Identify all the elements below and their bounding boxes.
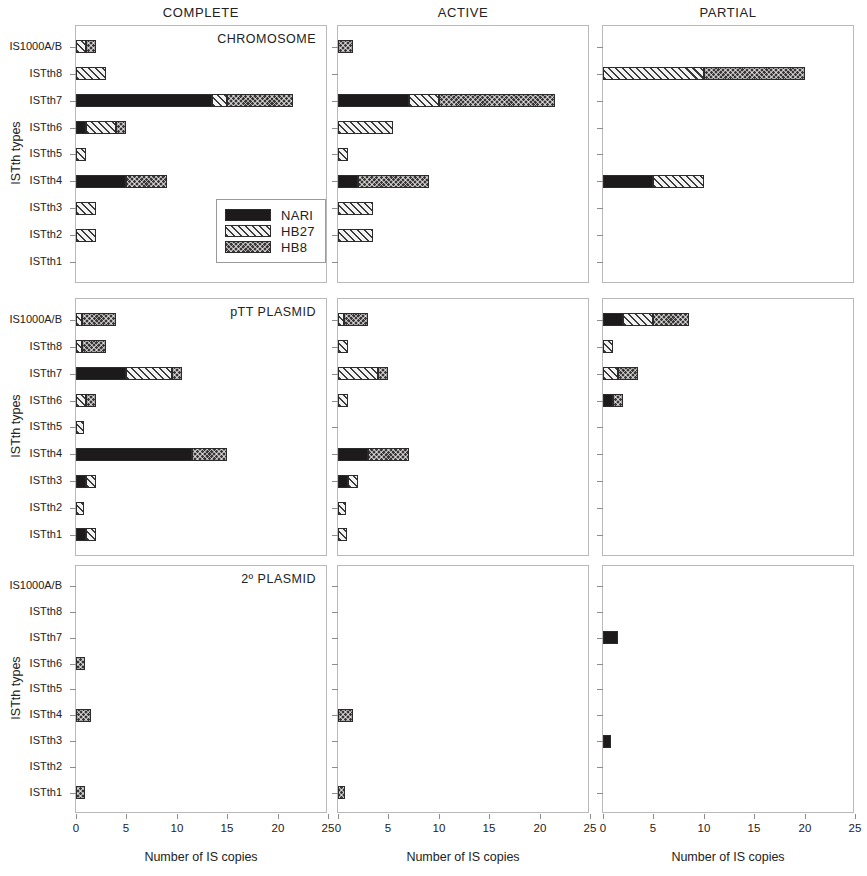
bar-row [603,175,855,188]
bar-row [603,394,855,407]
bar-segment-hb27 [86,475,96,488]
bar-row [76,657,328,670]
bar-segment-hb27 [76,202,96,215]
bar-row [338,394,590,407]
bar-segment-hb8 [338,786,345,799]
column-header-complete: COMPLETE [75,5,327,20]
y-label-istth1: ISTth1 [0,786,62,798]
bar-segment-nari [76,528,86,541]
bar-segment-nari [76,367,126,380]
bar-row [338,94,590,107]
x-tick-0 [338,814,339,819]
y-label-istth3: ISTth3 [0,734,62,746]
bar-row [338,580,590,593]
bar-row [76,148,328,161]
bar-row [603,94,855,107]
bar-row [603,313,855,326]
legend-label-hb27: HB27 [281,224,315,239]
x-tick-label-5: 25 [849,822,862,834]
bar-row [338,148,590,161]
x-tick-label-2: 10 [433,822,446,834]
x-tick-label-0: 0 [73,822,79,834]
x-axis-title-1: Number of IS copies [337,850,589,864]
bar-segment-hb8 [618,367,638,380]
bar-row [338,735,590,748]
panel-ptt-plasmid-partial [602,298,854,556]
bar-segment-hb27 [603,67,704,80]
panel-ptt-plasmid-active [337,298,589,556]
bar-row [338,448,590,461]
bar-row [603,121,855,134]
bar-segment-nari [338,94,409,107]
y-axis-title-1: ISTth types [9,386,23,466]
bar-segment-hb27 [76,148,86,161]
bar-row [338,760,590,773]
bar-row [338,67,590,80]
bar-row [603,631,855,644]
legend-entry-hb27: HB27 [225,224,315,238]
bar-segment-nari [76,175,126,188]
legend-entry-nari: NARI [225,208,315,222]
x-tick-label-5: 25 [584,822,597,834]
x-tick-1 [653,814,654,819]
bar-segment-hb8 [653,313,688,326]
bar-segment-hb27 [409,94,439,107]
bar-row [603,735,855,748]
bar-row [603,605,855,618]
bar-row [603,367,855,380]
x-tick-label-1: 5 [385,822,391,834]
x-tick-2 [177,814,178,819]
bar-row [338,421,590,434]
bar-segment-hb27 [212,94,227,107]
panel-chromosome-partial [602,25,854,283]
bar-row [338,631,590,644]
bar-row [76,683,328,696]
bar-segment-nari [76,94,212,107]
bar-segment-hb8 [344,313,368,326]
bar-segment-hb27 [86,121,116,134]
bar-segment-hb27 [76,394,86,407]
bar-segment-hb8 [338,40,353,53]
bar-segment-nari [76,475,86,488]
bar-row [76,760,328,773]
bar-row [76,313,328,326]
bar-row [338,475,590,488]
y-label-istth2: ISTth2 [0,760,62,772]
bar-segment-hb27 [623,313,653,326]
y-label-istth7: ISTth7 [0,631,62,643]
bar-row [76,502,328,515]
y-label-istth7: ISTth7 [0,367,62,379]
x-tick-1 [388,814,389,819]
bar-row [603,340,855,353]
bar-segment-hb27 [76,67,106,80]
x-tick-5 [590,814,591,819]
bar-row [603,709,855,722]
x-tick-label-1: 5 [650,822,656,834]
bar-segment-hb27 [86,528,96,541]
bar-segment-hb27 [76,502,84,515]
bar-row [338,657,590,670]
bar-row [76,528,328,541]
x-tick-label-4: 20 [799,822,812,834]
bar-segment-hb27 [338,528,347,541]
bar-segment-hb27 [603,367,618,380]
bar-row [76,631,328,644]
bar-segment-hb8 [378,367,388,380]
panel-2-plasmid-active: 0510152025 [337,565,589,813]
y-label-istth3: ISTth3 [0,201,62,213]
bar-segment-hb27 [338,340,348,353]
x-tick-label-0: 0 [600,822,606,834]
x-tick-2 [439,814,440,819]
x-tick-label-0: 0 [335,822,341,834]
legend-label-hb8: HB8 [281,240,307,255]
bar-row [338,367,590,380]
bar-row [76,94,328,107]
bar-row [603,580,855,593]
x-tick-0 [603,814,604,819]
y-label-istth7: ISTth7 [0,94,62,106]
y-label-istth3: ISTth3 [0,474,62,486]
bar-segment-hb8 [704,67,805,80]
bar-row [603,202,855,215]
bar-segment-nari [338,448,368,461]
legend-swatch-hb27 [225,225,271,237]
